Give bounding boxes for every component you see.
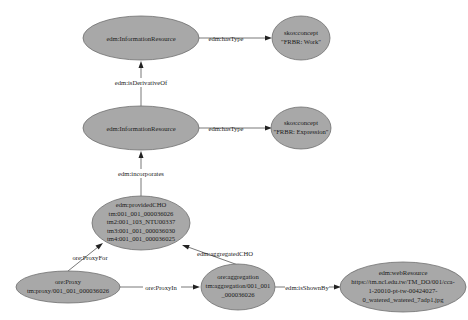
edge-aggregated-cho: edm:aggregatedCHO: [182, 245, 253, 265]
rdf-graph-diagram: edm:hasType edm:isDerivativeOf edm:hasTy…: [0, 0, 468, 320]
node-label: "FRBR: Expression": [273, 128, 328, 135]
edge-label-has-type-work: edm:hasType: [208, 35, 243, 42]
edge-label-proxy-in: ore:ProxyIn: [145, 284, 177, 291]
edge-label-incorporates: edm:incorporates: [118, 170, 164, 177]
node-concept-frbr-expression: skos:concept "FRBR: Expression": [271, 107, 331, 149]
edge-label-is-shown-by: edm:isShownBy: [285, 284, 329, 291]
node-label: edm:webResource: [379, 269, 428, 276]
node-label: edm:InformationResource: [106, 125, 175, 132]
edge-label-is-derivative-of: edm:isDerivativeOf: [115, 79, 168, 86]
node-label: tm:001_001_000036026: [109, 210, 175, 217]
node-label: edm:providedCHO: [116, 201, 167, 208]
node-label: "FRBR: Work": [281, 38, 321, 45]
arrowhead-icon: [193, 285, 200, 290]
edge-has-type-expression: edm:hasType: [199, 125, 272, 132]
edge-has-type-work: edm:hasType: [199, 35, 272, 42]
node-label: ore:Proxy: [55, 278, 82, 285]
edge-proxy-in: ore:ProxyIn: [119, 283, 200, 292]
node-provided-cho: edm:providedCHO tm:001_001_000036026 tm2…: [92, 196, 190, 250]
node-label: tm:proxy/001_001_000036026: [27, 287, 110, 294]
node-label: skos:concept: [284, 29, 318, 36]
arrowhead-icon: [182, 245, 190, 250]
node-ore-proxy: ore:Proxy tm:proxy/001_001_000036026: [16, 271, 120, 303]
node-label: 1-20010-pt-tw-00424027-: [369, 287, 438, 294]
node-web-resource: edm:webResource https://tm.ncl.edu.tw/TM…: [340, 262, 466, 312]
node-ore-aggregation: ore:aggregation tm:aggregation/001_001 _…: [201, 264, 275, 310]
node-label: skos:concept: [284, 119, 318, 126]
node-label: tm2:001_103_NTU00337: [107, 218, 176, 225]
node-information-resource-expression: edm:InformationResource: [83, 106, 199, 150]
edge-is-derivative-of: edm:isDerivativeOf: [110, 61, 172, 108]
node-information-resource-work: edm:InformationResource: [83, 16, 199, 60]
node-label: https://tm.ncl.edu.tw/TM_DO/001/cca-: [351, 278, 454, 285]
arrowhead-icon: [139, 151, 144, 158]
edge-proxy-for: ore:ProxyFor: [68, 243, 108, 271]
edge-is-shown-by: edm:isShownBy: [275, 283, 341, 292]
edge-label-proxy-for: ore:ProxyFor: [72, 254, 108, 261]
node-label: _000036026: [221, 291, 256, 298]
arrowhead-icon: [139, 61, 144, 68]
node-label: tm:aggregation/001_001: [206, 282, 271, 289]
edge-label-has-type-expression: edm:hasType: [208, 125, 243, 132]
node-concept-frbr-work: skos:concept "FRBR: Work": [272, 16, 330, 60]
node-label: 0_watered_watered_7adp1.jpg: [362, 296, 444, 303]
node-label: tm4:001_001_000036025: [107, 235, 176, 242]
edge-incorporates: edm:incorporates: [112, 151, 170, 197]
node-label: edm:InformationResource: [106, 35, 175, 42]
node-label: tm3:001_001_000036030: [107, 227, 176, 234]
arrowhead-icon: [265, 36, 272, 41]
node-label: ore:aggregation: [217, 273, 259, 280]
edge-label-aggregated-cho: edm:aggregatedCHO: [197, 250, 253, 257]
